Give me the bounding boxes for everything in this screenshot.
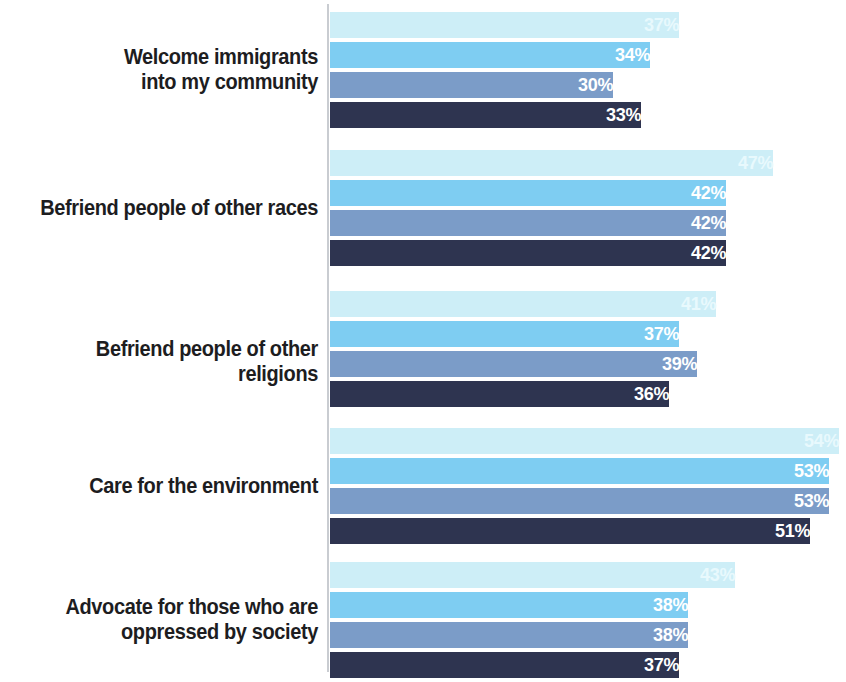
bar-group: Welcome immigrants into my community37%3… xyxy=(0,12,846,128)
bar-value-label: 36% xyxy=(347,381,676,407)
category-label: Befriend people of other religions xyxy=(22,337,318,387)
bar-value-label: 54% xyxy=(356,428,846,454)
category-label: Befriend people of other races xyxy=(22,196,318,221)
category-label: Advocate for those who are oppressed by … xyxy=(22,595,318,645)
bar-value-label: 43% xyxy=(351,562,742,588)
bar-group: Advocate for those who are oppressed by … xyxy=(0,562,846,678)
bar-value-label: 37% xyxy=(348,12,686,38)
bar-value-label: 37% xyxy=(348,652,686,678)
bar-value-label: 53% xyxy=(355,458,836,484)
category-label: Care for the environment xyxy=(22,474,318,499)
bar-group: Befriend people of other races47%42%42%4… xyxy=(0,150,846,266)
bar-group: Care for the environment54%53%53%51% xyxy=(0,428,846,544)
bar-value-label: 39% xyxy=(349,351,704,377)
bar-value-label: 34% xyxy=(346,42,657,68)
bar-value-label: 38% xyxy=(348,622,695,648)
bar-value-label: 42% xyxy=(350,180,733,206)
bar-value-label: 41% xyxy=(350,291,723,317)
bar-value-label: 38% xyxy=(348,592,695,618)
bar-value-label: 47% xyxy=(353,150,781,176)
bar-value-label: 33% xyxy=(346,102,648,128)
bar-value-label: 51% xyxy=(354,518,817,544)
bar-value-label: 53% xyxy=(355,488,836,514)
bar-value-label: 42% xyxy=(350,240,733,266)
bar-value-label: 37% xyxy=(348,321,686,347)
bar-group: Befriend people of other religions41%37%… xyxy=(0,291,846,407)
category-label: Welcome immigrants into my community xyxy=(22,45,318,95)
bar-value-label: 30% xyxy=(345,72,621,98)
bar-value-label: 42% xyxy=(350,210,733,236)
